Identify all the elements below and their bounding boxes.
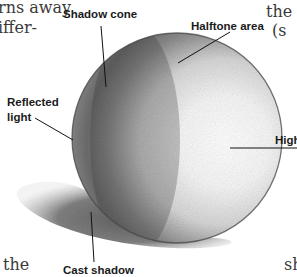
label-highlight: High <box>275 133 297 147</box>
label-shadow-cone: Shadow cone <box>63 7 137 21</box>
leader-reflected-light <box>35 118 73 140</box>
label-reflected-light-1: Reflected <box>7 95 59 109</box>
label-cast-shadow: Cast shadow <box>63 263 134 277</box>
label-halftone-area: Halftone area <box>191 19 264 33</box>
label-reflected-light-2: light <box>7 110 31 124</box>
sphere-illustration <box>0 0 297 277</box>
